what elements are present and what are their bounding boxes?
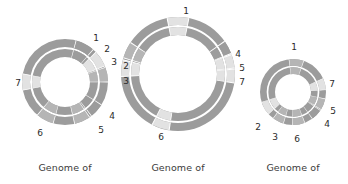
segment-label-species-a-1: 1 [93, 34, 99, 43]
segment-label-species-a-5: 5 [98, 126, 104, 135]
species-a-segment-7-inner [32, 76, 40, 89]
segment-label-species-c-7: 7 [329, 80, 335, 89]
segment-label-species-c-2: 2 [255, 123, 261, 132]
segment-label-species-b-5: 5 [239, 64, 245, 73]
segment-label-species-c-3: 3 [272, 133, 278, 142]
segment-label-species-a-3: 3 [111, 58, 117, 67]
species-c-segment-1-outer [289, 59, 304, 67]
species-b-segment-7-outer [226, 69, 235, 83]
segment-label-species-b-1: 1 [183, 7, 189, 16]
genome-comparison-figure: 123456712345761754632 Genome of species … [0, 0, 348, 184]
species-a-segment-3-inner-divider-1 [90, 82, 98, 83]
species-a-segment-3-outer-divider-1 [100, 82, 108, 83]
segment-label-species-a-2: 2 [104, 45, 110, 54]
segment-label-species-b-2: 2 [123, 62, 129, 71]
segment-label-species-b-3: 3 [123, 77, 129, 86]
segment-label-species-c-6: 6 [294, 135, 300, 144]
caption-species-b-line1: Genome of [151, 162, 204, 173]
segment-label-species-b-6: 6 [158, 133, 164, 142]
caption-species-b: Genome of species B [118, 150, 238, 184]
segment-label-species-c-4: 4 [324, 120, 330, 129]
segment-label-species-c-5: 5 [330, 107, 336, 116]
segment-label-species-a-4: 4 [109, 112, 115, 121]
segment-label-species-b-4: 4 [235, 50, 241, 59]
genome-ring-species-a [22, 39, 108, 125]
species-b-segment-2-inner [131, 62, 140, 76]
caption-species-c: Genome of species C [233, 150, 348, 184]
segment-label-species-c-1: 1 [291, 43, 297, 52]
segment-label-species-a-6: 6 [37, 129, 43, 138]
caption-species-c-line1: Genome of [266, 162, 319, 173]
caption-species-a-line1: Genome of [38, 162, 91, 173]
species-a-segment-7-outer [22, 74, 31, 90]
segment-label-species-b-7: 7 [239, 78, 245, 87]
caption-species-a: Genome of species A [5, 150, 125, 184]
genome-ring-species-b [121, 17, 235, 131]
segment-label-species-a-7: 7 [15, 79, 21, 88]
species-b-segment-7-inner [217, 70, 225, 81]
species-b-segment-1-outer [167, 17, 189, 26]
genome-ring-species-c [260, 59, 326, 125]
species-b-segment-1-inner [169, 27, 187, 36]
